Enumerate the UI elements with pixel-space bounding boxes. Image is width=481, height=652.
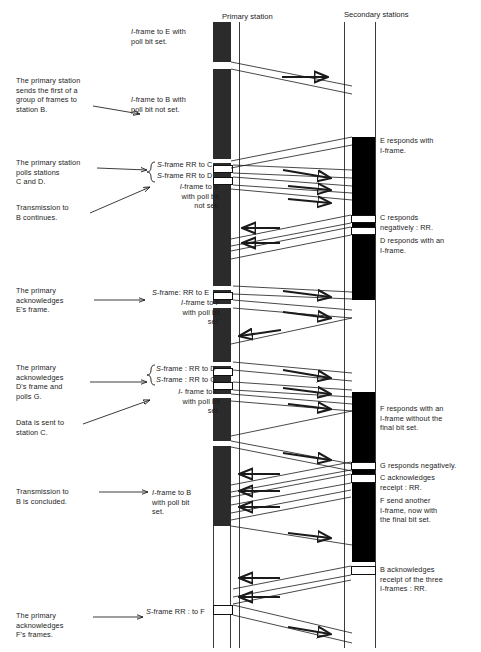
left-note-2: The primary station polls stations C and…	[16, 158, 102, 187]
left-note-3: Transmission to B continues.	[16, 203, 102, 222]
primary-slot-i-frame-b-final	[213, 441, 231, 446]
frame-label-i-frame-c: I- frame to C with poll bit set.	[146, 387, 220, 416]
left-note-6: Data is sent to station C.	[16, 418, 102, 437]
frame-label-s-frame-rr-d: S-frame RR to D	[157, 171, 219, 181]
left-note-8: The primary acknowledges F's frames.	[16, 611, 102, 640]
primary-station-header: Primary station	[222, 12, 273, 21]
right-note-g-negative: G responds negatively.	[380, 461, 481, 471]
primary-station-right-edge	[239, 22, 240, 648]
frame-label-s-frame-rr-g: S-frame : RR to G	[156, 375, 224, 385]
frame-label-i-frame-f: I-frame to F with poll bit set.	[142, 298, 220, 327]
frame-label-s-frame-rr-d2: S-frame : RR to D	[156, 364, 224, 374]
right-note-b-ack: B acknowledges receipt of the three I-fr…	[380, 565, 476, 594]
frame-label-i-frame-b-3: I-frame to B with poll bit set.	[152, 488, 214, 517]
timing-diagram-page: Primary station Secondary stations	[0, 0, 481, 652]
secondary-slot-c-ack-rr	[351, 474, 376, 483]
right-note-f-responds: F responds with an I-frame without the f…	[380, 404, 479, 433]
secondary-station-left-edge	[344, 22, 345, 648]
secondary-block-idle-1	[352, 300, 375, 368]
right-note-c-negative: C responds negatively : RR.	[380, 213, 476, 232]
right-note-e-responds: E responds with I-frame.	[380, 136, 476, 155]
primary-slot-i-frame-e	[213, 62, 231, 69]
secondary-stations-header: Secondary stations	[344, 10, 409, 19]
secondary-slot-g-negative	[351, 462, 376, 470]
frame-label-s-frame-rr-e: S-frame: RR to E	[152, 288, 220, 298]
left-note-5: The primary acknowledges D's frame and p…	[16, 363, 102, 401]
frame-label-s-frame-rr-c: S-frame RR to C	[157, 160, 219, 170]
primary-station-bar-idle	[213, 526, 231, 648]
frame-label-i-frame-b-2: I-frame to B with poll bit not set.	[141, 182, 219, 211]
right-note-f-second-frame: F send another I-frame, now with the fin…	[380, 496, 476, 525]
primary-slot-s-frame-rr-f	[213, 605, 233, 615]
right-note-d-responds: D responds with an I-frame.	[380, 236, 479, 255]
secondary-slot-c-rr	[351, 215, 376, 223]
frame-label-s-frame-rr-f: S-frame RR : to F	[146, 607, 214, 617]
frame-label-i-frame-b-1: I-frame to B with poll bit not set.	[131, 95, 211, 114]
secondary-slot-d-i-frame	[351, 227, 376, 235]
primary-station-bar	[213, 22, 231, 526]
right-note-c-ack: C acknowledges receipt : RR.	[380, 473, 476, 492]
left-note-4: The primary acknowledges E's frame.	[16, 286, 102, 315]
secondary-slot-b-ack-rr	[351, 566, 376, 575]
left-note-1: The primary station sends the first of a…	[16, 76, 106, 114]
left-note-7: Transmission to B is concluded.	[16, 487, 108, 506]
frame-label-i-frame-e: I-frame to E with poll bit set.	[131, 27, 209, 46]
secondary-station-right-edge	[375, 22, 376, 648]
